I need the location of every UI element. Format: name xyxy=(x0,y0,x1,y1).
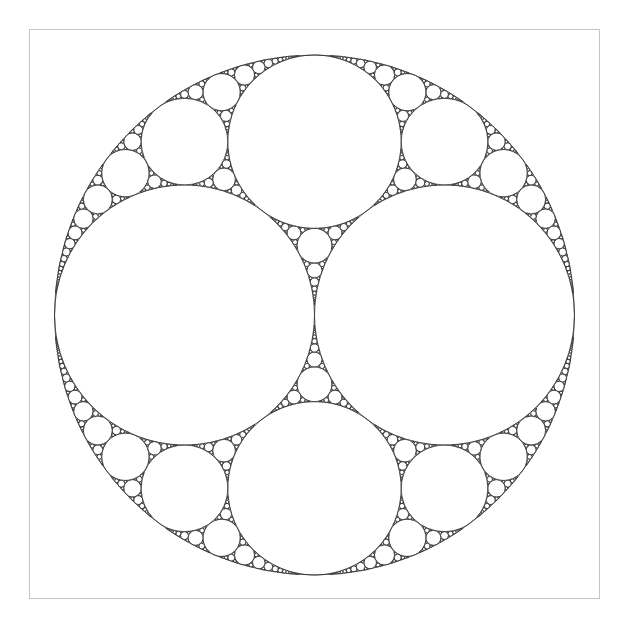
gasket-circle xyxy=(403,191,404,192)
gasket-circle xyxy=(408,73,409,74)
gasket-circle xyxy=(221,111,222,112)
gasket-circle xyxy=(296,248,297,249)
gasket-circle xyxy=(505,489,506,490)
gasket-circle xyxy=(228,126,229,127)
gasket-circle xyxy=(197,183,200,186)
gasket-circle xyxy=(560,234,561,235)
gasket-circle xyxy=(73,219,74,220)
gasket-circle xyxy=(405,462,406,463)
gasket-circle xyxy=(440,88,441,89)
gasket-circle xyxy=(398,189,399,190)
gasket-circle xyxy=(212,175,214,177)
gasket-circle xyxy=(565,381,566,382)
gasket-circle xyxy=(467,178,468,179)
gasket-circle xyxy=(272,64,274,66)
gasket-circle xyxy=(175,534,176,535)
gasket-circle xyxy=(271,570,273,572)
gasket-circle xyxy=(542,209,543,210)
gasket-circle xyxy=(501,480,502,481)
gasket-circle xyxy=(342,233,343,234)
gasket-circle xyxy=(405,167,406,168)
gasket-circle xyxy=(102,416,103,417)
gasket-circle xyxy=(74,209,93,228)
gasket-circle xyxy=(546,198,547,199)
gasket-circle xyxy=(102,182,103,183)
gasket-circle xyxy=(60,368,61,369)
gasket-circle xyxy=(565,362,566,363)
gasket-circle xyxy=(388,534,389,535)
gasket-circle xyxy=(64,384,65,385)
gasket-circle xyxy=(443,89,444,90)
gasket-circle xyxy=(96,174,98,176)
gasket-circle xyxy=(310,280,311,281)
gasket-circle xyxy=(167,447,168,448)
gasket-circle xyxy=(391,67,392,68)
gasket-circle xyxy=(196,545,197,546)
gasket-circle xyxy=(480,167,481,168)
gasket-circle xyxy=(82,232,84,234)
gasket-circle xyxy=(117,146,118,147)
gasket-circle xyxy=(265,560,266,561)
gasket-circle xyxy=(234,184,235,185)
gasket-circle xyxy=(541,441,542,442)
gasket-circle xyxy=(225,438,226,439)
gasket-circle xyxy=(532,454,534,456)
gasket-circle xyxy=(499,133,500,134)
gasket-circle xyxy=(232,561,233,562)
gasket-circle xyxy=(152,441,153,442)
gasket-circle xyxy=(251,562,252,563)
gasket-circle xyxy=(400,474,403,477)
gasket-circle xyxy=(404,159,405,160)
gasket-circle xyxy=(469,443,470,444)
gasket-circle xyxy=(298,574,299,575)
gasket-circle xyxy=(228,168,229,169)
gasket-circle xyxy=(443,539,444,540)
gasket-circle xyxy=(159,186,160,187)
gasket-circle xyxy=(351,571,352,572)
gasket-circle xyxy=(105,443,106,444)
gasket-circle xyxy=(567,368,568,369)
gasket-circle xyxy=(536,448,537,449)
gasket-circle xyxy=(62,374,64,376)
gasket-circle xyxy=(140,437,141,438)
gasket-circle xyxy=(535,221,536,222)
gasket-circle xyxy=(246,565,247,566)
gasket-circle xyxy=(562,238,563,239)
gasket-circle xyxy=(143,472,144,473)
gasket-circle xyxy=(412,188,413,189)
gasket-circle xyxy=(337,225,338,226)
gasket-circle xyxy=(556,381,557,382)
gasket-circle xyxy=(302,371,303,372)
gasket-circle xyxy=(432,545,433,546)
gasket-circle xyxy=(508,432,509,433)
right-large-circle xyxy=(315,185,575,445)
gasket-circle xyxy=(272,565,274,567)
gasket-circle xyxy=(568,274,571,277)
gasket-circle xyxy=(541,228,542,229)
gasket-circle xyxy=(340,405,341,406)
gasket-circle xyxy=(63,248,64,249)
gasket-circle xyxy=(393,179,394,180)
gasket-circle xyxy=(507,429,508,430)
gasket-circle xyxy=(77,419,78,420)
gasket-circle xyxy=(330,574,331,575)
gasket-circle xyxy=(82,431,83,432)
gasket-circle xyxy=(70,402,71,403)
gasket-circle xyxy=(237,562,238,563)
gasket-circle xyxy=(278,61,279,62)
gasket-circle xyxy=(516,427,517,428)
gasket-circle xyxy=(484,507,485,508)
gasket-circle xyxy=(224,470,225,471)
gasket-circle xyxy=(391,562,392,563)
gasket-circle xyxy=(83,185,112,214)
gasket-circle xyxy=(398,440,399,441)
gasket-circle xyxy=(357,59,359,61)
gasket-circle xyxy=(476,188,477,189)
gasket-circle xyxy=(59,265,60,266)
gasket-circle xyxy=(123,139,124,140)
gasket-circle xyxy=(227,555,228,556)
gasket-circle xyxy=(82,396,84,398)
gasket-circle xyxy=(516,196,517,197)
gasket-circle xyxy=(75,225,76,226)
gasket-circle xyxy=(394,184,395,185)
